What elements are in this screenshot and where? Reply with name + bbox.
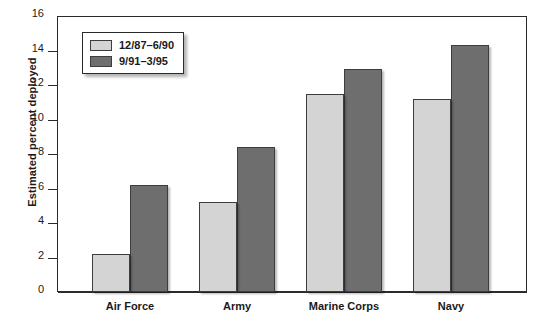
y-axis-tick-mark (48, 189, 57, 190)
y-axis-tick-mark (48, 258, 57, 259)
y-axis-tick-mark (48, 120, 57, 121)
legend-swatch-series-1 (90, 40, 112, 51)
bar (237, 147, 275, 292)
y-axis-tick-mark (48, 85, 57, 86)
y-axis-tick-mark (48, 51, 57, 52)
x-axis-tick-label: Navy (383, 300, 519, 312)
y-axis-tick-label: 8 (38, 146, 44, 157)
y-axis-tick-label: 10 (32, 112, 44, 123)
y-axis-tick-label: 14 (32, 43, 44, 54)
bar-chart: Estimated percent deployed 0246810121416… (0, 0, 541, 323)
legend: 12/87–6/90 9/91–3/95 (82, 32, 184, 74)
y-axis-tick-label: 16 (32, 8, 44, 19)
bar (344, 69, 382, 292)
y-axis-tick-label: 4 (38, 215, 44, 226)
y-axis-title: Estimated percent deployed (26, 22, 38, 242)
legend-item: 12/87–6/90 (90, 38, 174, 52)
y-axis-tick-label: 12 (32, 77, 44, 88)
bar (92, 254, 130, 292)
y-axis-tick-mark (48, 223, 57, 224)
bar (306, 94, 344, 292)
y-axis-tick-label: 0 (38, 284, 44, 295)
y-axis-tick-label: 2 (38, 250, 44, 261)
bar (413, 99, 451, 292)
legend-swatch-series-2 (90, 56, 112, 67)
legend-label-series-2: 9/91–3/95 (119, 56, 168, 67)
legend-item: 9/91–3/95 (90, 54, 174, 68)
y-axis-tick-mark (48, 154, 57, 155)
bar (451, 45, 489, 292)
legend-label-series-1: 12/87–6/90 (119, 40, 174, 51)
y-axis-tick-label: 6 (38, 181, 44, 192)
bar (199, 202, 237, 292)
bar (130, 185, 168, 292)
